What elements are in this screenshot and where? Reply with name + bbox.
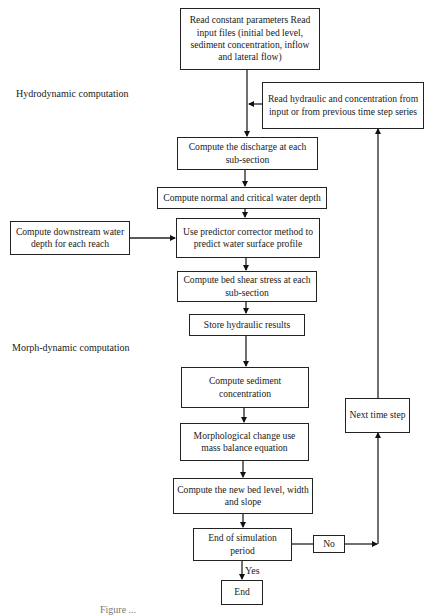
next-step-text: Next time step [350,409,406,421]
new-bed-node: Compute the new bed level, width and slo… [173,478,313,514]
no-node: No [313,535,345,553]
figure-caption: Figure ... [100,604,136,615]
section-label-hydrodynamic: Hydrodynamic computation [16,88,128,99]
read-input-text: Read constant parameters Read input file… [184,14,316,64]
read-hydraulic-node: Read hydraulic and concentration from in… [262,82,424,129]
morphological-text: Morphological change use mass balance eq… [184,430,305,455]
bed-shear-text: Compute bed shear stress at each sub-sec… [181,274,313,299]
end-node: End [221,580,263,605]
downstream-text: Compute downstream water depth for each … [14,226,126,251]
new-bed-text: Compute the new bed level, width and slo… [177,484,309,509]
normal-critical-text: Compute normal and critical water depth [163,192,320,204]
discharge-text: Compute the discharge at each sub-sectio… [181,141,314,166]
sediment-node: Compute sediment concentration [181,367,309,408]
predictor-node: Use predictor corrector method to predic… [176,218,320,258]
section-label-morphdynamic: Morph-dynamic computation [12,342,129,353]
predictor-text: Use predictor corrector method to predic… [180,226,316,251]
read-input-node: Read constant parameters Read input file… [180,8,320,70]
normal-critical-node: Compute normal and critical water depth [157,187,327,209]
sediment-text: Compute sediment concentration [185,375,305,400]
bed-shear-node: Compute bed shear stress at each sub-sec… [177,271,317,302]
read-hydraulic-text: Read hydraulic and concentration from in… [266,93,420,118]
morphological-node: Morphological change use mass balance eq… [180,423,309,461]
yes-edge-label: Yes [245,565,260,576]
store-text: Store hydraulic results [204,319,290,331]
store-node: Store hydraulic results [189,314,305,336]
next-step-node: Next time step [345,398,410,433]
no-text: No [323,538,335,550]
discharge-node: Compute the discharge at each sub-sectio… [177,137,318,170]
downstream-node: Compute downstream water depth for each … [10,221,130,255]
end-check-text: End of simulation period [197,532,288,557]
end-text: End [234,586,249,598]
end-check-node: End of simulation period [193,528,292,561]
